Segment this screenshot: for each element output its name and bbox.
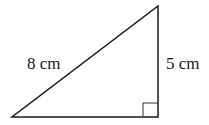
right-angle-marker (143, 103, 158, 117)
hypotenuse-label: 8 cm (27, 54, 61, 73)
triangle-diagram: 8 cm 5 cm (0, 0, 209, 125)
vertical-side-label: 5 cm (166, 54, 200, 73)
